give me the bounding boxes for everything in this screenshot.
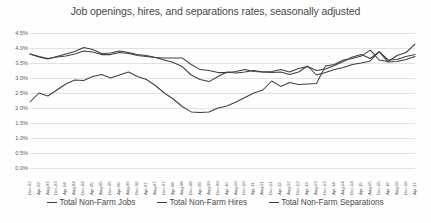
- x-axis-tick-label: Apr-10: [224, 182, 229, 195]
- legend-item[interactable]: Total Non-Farm Separations: [269, 198, 383, 207]
- legend-label: Total Non-Farm Separations: [281, 198, 383, 207]
- plot-area: [30, 33, 415, 168]
- y-axis-tick-label: 1.5%: [2, 120, 28, 126]
- legend-label: Total Non-Farm Jobs: [59, 198, 135, 207]
- x-axis-tick-label: Dec-04: [80, 181, 85, 195]
- series-line: [30, 47, 415, 81]
- x-axis-tick-label: Apr-07: [143, 182, 148, 195]
- series-lines: [30, 33, 415, 168]
- series-line: [30, 51, 415, 75]
- y-axis-tick-label: 4.0%: [2, 45, 28, 51]
- y-axis-labels: 4.5%4.0%3.5%3.0%2.5%2.0%1.5%1.0%0.5%0.0%: [0, 33, 28, 168]
- x-axis-tick-label: Dec-02: [27, 181, 32, 195]
- x-axis-tick-label: Aug-16: [394, 181, 399, 195]
- x-axis-tick-label: Dec-14: [349, 181, 354, 195]
- x-axis-tick-label: Aug-15: [367, 181, 372, 195]
- x-axis-tick-label: Aug-06: [125, 181, 130, 195]
- x-axis-tick-label: Apr-15: [358, 182, 363, 195]
- x-axis-tick-label: Aug-07: [152, 181, 157, 195]
- x-axis-tick-label: Dec-03: [53, 181, 58, 195]
- x-axis-tick-label: Apr-06: [116, 182, 121, 195]
- x-axis-tick-label: Apr-09: [197, 182, 202, 195]
- x-axis-tick-label: Aug-13: [313, 181, 318, 195]
- x-axis-tick-label: Aug-10: [233, 181, 238, 195]
- x-axis-tick-label: Apr-17: [412, 182, 417, 195]
- x-axis-tick-label: Dec-09: [215, 181, 220, 195]
- legend-label: Total Non-Farm Hires: [169, 198, 247, 207]
- x-axis-tick-label: Apr-04: [62, 182, 67, 195]
- y-axis-tick-label: 0.0%: [2, 165, 28, 171]
- y-axis-tick-label: 2.0%: [2, 105, 28, 111]
- x-axis-tick-label: Aug-12: [286, 181, 291, 195]
- legend-item[interactable]: Total Non-Farm Hires: [157, 198, 247, 207]
- chart-title: Job openings, hires, and separations rat…: [0, 5, 431, 17]
- legend-item[interactable]: Total Non-Farm Jobs: [47, 198, 135, 207]
- legend-line-swatch-icon: [269, 202, 279, 203]
- legend-line-swatch-icon: [157, 202, 167, 203]
- x-axis-tick-label: Dec-15: [376, 181, 381, 195]
- series-line: [30, 44, 415, 112]
- x-axis-tick-label: Apr-03: [36, 182, 41, 195]
- x-axis-tick-label: Dec-05: [107, 181, 112, 195]
- x-axis-tick-label: Aug-05: [98, 181, 103, 195]
- y-axis-tick-label: 1.0%: [2, 135, 28, 141]
- x-axis-labels: Dec-02Apr-03Aug-03Dec-03Apr-04Aug-04Dec-…: [30, 169, 415, 195]
- y-axis-tick-label: 3.5%: [2, 60, 28, 66]
- legend-line-swatch-icon: [47, 202, 57, 203]
- x-axis-tick-label: Dec-06: [134, 181, 139, 195]
- x-axis-tick-label: Dec-07: [161, 181, 166, 195]
- x-axis-tick-label: Aug-08: [179, 181, 184, 195]
- x-axis-tick-label: Aug-14: [340, 181, 345, 195]
- x-axis-tick-label: Apr-12: [277, 182, 282, 195]
- x-axis-tick-label: Apr-13: [304, 182, 309, 195]
- y-axis-tick-label: 4.5%: [2, 30, 28, 36]
- y-axis-tick-label: 2.5%: [2, 90, 28, 96]
- x-axis-tick-label: Apr-05: [89, 182, 94, 195]
- x-axis-tick-label: Dec-08: [188, 181, 193, 195]
- x-axis-tick-label: Apr-08: [170, 182, 175, 195]
- x-axis-tick-label: Dec-10: [241, 181, 246, 195]
- x-axis-tick-label: Aug-11: [259, 182, 264, 195]
- x-axis-tick-label: Dec-13: [322, 181, 327, 195]
- x-axis-tick-label: Apr-14: [331, 182, 336, 195]
- x-axis-tick-label: Dec-11: [268, 182, 273, 195]
- y-axis-tick-label: 3.0%: [2, 75, 28, 81]
- chart-legend: Total Non-Farm JobsTotal Non-Farm HiresT…: [0, 198, 431, 207]
- x-axis-tick-label: Aug-03: [45, 181, 50, 195]
- x-axis-tick-label: Dec-16: [403, 181, 408, 195]
- x-axis-tick-label: Apr-16: [385, 182, 390, 195]
- y-axis-tick-label: 0.5%: [2, 150, 28, 156]
- x-axis-tick-label: Apr-11: [250, 183, 255, 195]
- chart-container: Job openings, hires, and separations rat…: [0, 0, 431, 223]
- x-axis-tick-label: Aug-09: [206, 181, 211, 195]
- x-axis-tick-label: Dec-12: [295, 181, 300, 195]
- x-axis-tick-label: Aug-04: [71, 181, 76, 195]
